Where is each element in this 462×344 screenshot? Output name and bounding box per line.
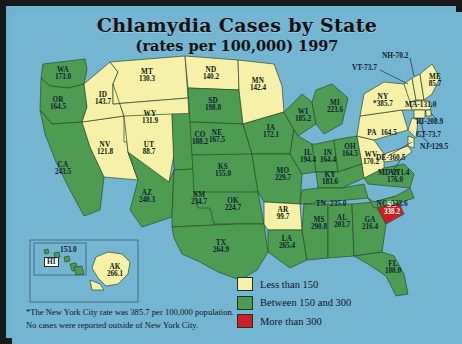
state-SD[interactable]: [188, 88, 243, 124]
state-IN[interactable]: [312, 140, 338, 172]
leader-line-nj: [417, 132, 432, 146]
legend-label-high: More than 300: [260, 316, 322, 327]
state-WA[interactable]: [41, 59, 87, 88]
map-canvas: Chlamydia Cases by State (rates per 100,…: [12, 12, 462, 344]
state-MS[interactable]: [302, 204, 328, 260]
leader-line-ct: [420, 118, 424, 134]
leader-line-nh: [410, 58, 414, 76]
legend-label-mid: Between 150 and 300: [260, 297, 351, 308]
legend-item-mid: Between 150 and 300: [237, 296, 351, 310]
state-NY[interactable]: [360, 82, 412, 116]
state-HI-2[interactable]: [54, 252, 60, 258]
state-FL[interactable]: [354, 252, 408, 296]
state-HI-1[interactable]: [44, 249, 49, 254]
state-RI[interactable]: [426, 110, 431, 116]
state-NE[interactable]: [190, 122, 252, 157]
state-KS[interactable]: [192, 154, 258, 194]
state-MI[interactable]: [312, 84, 348, 134]
legend-swatch-low-icon: [237, 277, 253, 291]
legend-label-low: Less than 150: [260, 279, 318, 290]
state-MD[interactable]: [384, 146, 412, 162]
state-NJ[interactable]: [408, 118, 418, 138]
footnote-line-1: *The New York City rate was 385.7 per 10…: [26, 306, 241, 319]
state-NC[interactable]: [368, 188, 414, 208]
footnote-line-2: No cases were reported outside of New Yo…: [26, 319, 241, 332]
state-HI-3[interactable]: [64, 256, 70, 262]
state-TX[interactable]: [172, 224, 268, 280]
footnote: *The New York City rate was 385.7 per 10…: [26, 306, 241, 332]
state-CT[interactable]: [414, 110, 425, 118]
state-ME[interactable]: [420, 64, 440, 100]
state-DE[interactable]: [408, 136, 414, 148]
legend: Less than 150 Between 150 and 300 More t…: [237, 277, 351, 333]
state-LA[interactable]: [268, 230, 307, 268]
state-HI-5[interactable]: [74, 266, 84, 275]
leader-line-ri: [431, 113, 436, 119]
state-ND[interactable]: [185, 56, 239, 90]
legend-item-low: Less than 150: [237, 277, 351, 291]
state-AK[interactable]: [92, 252, 130, 286]
poster-frame: Chlamydia Cases by State (rates per 100,…: [0, 0, 462, 344]
state-MA[interactable]: [410, 100, 432, 110]
legend-item-high: More than 300: [237, 314, 351, 328]
state-AR[interactable]: [264, 202, 302, 230]
state-MT[interactable]: [110, 56, 188, 104]
state-AL[interactable]: [328, 204, 354, 258]
